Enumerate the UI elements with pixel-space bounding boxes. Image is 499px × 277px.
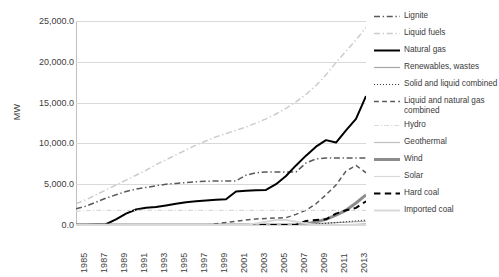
legend-swatch-icon [374,78,400,91]
x-axis-tick-label: 2007 [299,253,309,273]
legend-item[interactable]: Natural gas [374,44,499,58]
x-axis-tick-label: 2013 [359,253,369,273]
x-axis-tick-label: 2011 [339,253,349,273]
legend-item[interactable]: Solar [374,170,499,184]
legend-item[interactable]: Lignite [374,10,499,24]
series-line [76,96,366,225]
x-axis-tick-label: 1989 [119,253,129,273]
gridline [76,225,366,226]
y-axis-tick-label: 0.0 [61,220,74,230]
legend-label: Natural gas [404,44,446,55]
legend-swatch-icon [374,61,400,74]
legend-item[interactable]: Liquid and natural gas combined [374,95,499,116]
y-axis-tick-labels: 0.05,000.010,000.015,000.020,000.025,000… [18,0,74,277]
legend-label: Hard coal [404,187,439,198]
legend-item[interactable]: Renewables, wastes [374,61,499,75]
series-lines [76,21,366,225]
legend: LigniteLiquid fuelsNatural gasRenewables… [374,10,499,221]
legend-swatch-icon [374,27,400,40]
legend-item[interactable]: Hydro [374,119,499,133]
y-axis-tick-label: 25,000.0 [39,16,74,26]
legend-item[interactable]: Liquid fuels [374,27,499,41]
y-axis-tick-label: 15,000.0 [39,98,74,108]
legend-label: Hydro [404,119,426,130]
legend-item[interactable]: Geothermal [374,136,499,150]
legend-swatch-icon [374,170,400,183]
legend-item[interactable]: Hard coal [374,187,499,201]
series-line [76,210,366,211]
y-axis-tick-label: 20,000.0 [39,57,74,67]
legend-item[interactable]: Solid and liquid combined [374,78,499,92]
series-line [76,165,366,225]
legend-swatch-icon [374,10,400,23]
x-axis-tick-label: 2001 [239,253,249,273]
legend-item[interactable]: Wind [374,153,499,167]
x-axis-tick-label: 2009 [319,253,329,273]
x-axis-tick-label: 1993 [159,253,169,273]
legend-swatch-icon [374,119,400,132]
plot-area [76,21,366,225]
legend-label: Renewables, wastes [404,61,479,72]
x-axis-tick-labels: 1985198719891991199319951997199920012003… [76,227,366,277]
y-axis-tick-label: 5,000.0 [44,179,74,189]
legend-swatch-icon [374,187,400,200]
legend-label: Wind [404,153,423,164]
legend-swatch-icon [374,204,400,217]
legend-label: Geothermal [404,136,447,147]
x-axis-tick-label: 1991 [139,253,149,273]
legend-label: Liquid fuels [404,27,445,38]
series-line [76,28,366,204]
y-axis-tick-label: 10,000.0 [39,138,74,148]
x-axis-tick-label: 2003 [259,253,269,273]
legend-label: Lignite [404,10,428,21]
legend-label: Liquid and natural gas combined [404,95,499,116]
x-axis-tick-label: 1999 [219,253,229,273]
x-axis-tick-label: 2005 [279,253,289,273]
x-axis-tick-label: 1995 [179,253,189,273]
legend-swatch-icon [374,44,400,57]
legend-item[interactable]: Imported coal [374,204,499,218]
legend-swatch-icon [374,136,400,149]
chart-figure: MW 0.05,000.010,000.015,000.020,000.025,… [0,0,499,277]
legend-label: Solid and liquid combined [404,78,497,89]
x-axis-tick-label: 1985 [79,253,89,273]
legend-label: Solar [404,170,423,181]
legend-swatch-icon [374,95,400,108]
x-axis-tick-label: 1997 [199,253,209,273]
legend-swatch-icon [374,153,400,166]
x-axis-tick-label: 1987 [99,253,109,273]
legend-label: Imported coal [404,204,454,215]
